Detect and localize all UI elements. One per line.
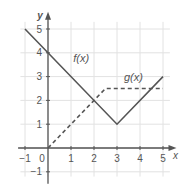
series-label-g: g(x) (124, 71, 143, 83)
series-labels: f(x)g(x) (73, 52, 143, 83)
y-tick-label: 1 (36, 119, 42, 130)
y-tick-label: 3 (36, 71, 42, 82)
x-tick-label: 1 (68, 153, 74, 164)
y-tick-label: −1 (31, 166, 43, 177)
x-axis-label: x (172, 150, 179, 161)
series-line-g (48, 89, 163, 149)
x-tick-label: 3 (114, 153, 120, 164)
tick-labels: −1012345−112345xy (19, 10, 179, 178)
y-tick-label: 4 (36, 47, 42, 58)
y-axis-arrow-icon (45, 12, 51, 20)
function-graph: −1012345−112345xy f(x)g(x) (0, 0, 186, 195)
y-tick-label: 5 (36, 24, 42, 35)
x-tick-label: 2 (91, 153, 97, 164)
x-tick-label: −1 (19, 153, 31, 164)
x-tick-label: 0 (39, 153, 45, 164)
series-label-f: f(x) (73, 52, 89, 64)
x-tick-label: 5 (160, 153, 166, 164)
y-axis-label: y (36, 10, 43, 21)
y-tick-label: 2 (36, 95, 42, 106)
x-tick-label: 4 (137, 153, 143, 164)
